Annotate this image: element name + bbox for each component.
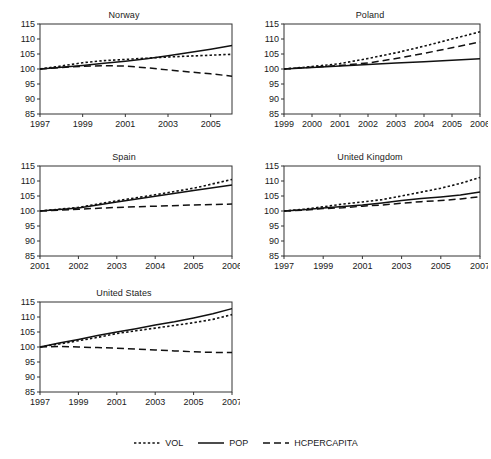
y-tick-label: 105 bbox=[20, 327, 35, 337]
y-tick-label: 90 bbox=[25, 236, 35, 246]
x-tick-label: 2002 bbox=[358, 119, 378, 129]
y-tick-label: 105 bbox=[20, 191, 35, 201]
y-tick-label: 110 bbox=[265, 176, 279, 186]
figure-multi-panel-line-chart: Norway8590951001051101151997199920012003… bbox=[0, 0, 491, 459]
y-tick-label: 95 bbox=[25, 357, 35, 367]
plot-frame bbox=[40, 166, 232, 256]
y-tick-label: 90 bbox=[269, 236, 279, 246]
y-tick-label: 110 bbox=[21, 34, 35, 44]
x-tick-label: 2003 bbox=[386, 119, 406, 129]
panel-plot: 8590951001051101151999200020012002200320… bbox=[252, 10, 488, 140]
panel-plot: 8590951001051101151997199920012003200520… bbox=[252, 152, 488, 282]
x-tick-label: 1999 bbox=[68, 397, 88, 407]
legend-swatch-hcpercapita bbox=[262, 438, 290, 448]
series-line-vol bbox=[40, 180, 232, 212]
x-tick-label: 2005 bbox=[431, 261, 451, 271]
x-tick-label: 1999 bbox=[274, 119, 294, 129]
x-tick-label: 2006 bbox=[222, 261, 240, 271]
chart-legend: VOL POP HCPERCAPITA bbox=[0, 432, 491, 454]
x-tick-label: 1999 bbox=[73, 119, 93, 129]
panel-plot: 8590951001051101151997199920012003200520… bbox=[8, 288, 240, 418]
y-tick-label: 85 bbox=[25, 109, 35, 119]
x-tick-label: 2003 bbox=[392, 261, 412, 271]
panel-title: United States bbox=[8, 288, 240, 299]
panel-title: Norway bbox=[8, 10, 240, 21]
x-tick-label: 1997 bbox=[30, 397, 50, 407]
series-line-hcpercapita bbox=[40, 346, 232, 352]
panel-title: Poland bbox=[252, 10, 488, 21]
series-line-vol bbox=[284, 177, 480, 211]
x-tick-label: 2006 bbox=[470, 119, 488, 129]
legend-item-vol: VOL bbox=[133, 438, 183, 448]
legend-label-hcpercapita: HCPERCAPITA bbox=[294, 438, 357, 448]
chart-panel-poland: Poland8590951001051101151999200020012002… bbox=[252, 10, 488, 140]
x-tick-label: 2003 bbox=[145, 397, 165, 407]
legend-label-vol: VOL bbox=[165, 438, 183, 448]
plot-frame bbox=[284, 166, 480, 256]
x-tick-label: 2001 bbox=[330, 119, 350, 129]
chart-panel-norway: Norway8590951001051101151997199920012003… bbox=[8, 10, 240, 140]
y-tick-label: 100 bbox=[264, 64, 279, 74]
y-tick-label: 85 bbox=[269, 251, 279, 261]
y-tick-label: 100 bbox=[20, 206, 35, 216]
x-tick-label: 2004 bbox=[145, 261, 165, 271]
panel-title: United Kingdom bbox=[252, 152, 488, 163]
x-tick-label: 2003 bbox=[158, 119, 178, 129]
y-tick-label: 100 bbox=[264, 206, 279, 216]
y-tick-label: 105 bbox=[264, 49, 279, 59]
series-line-pop bbox=[284, 59, 480, 69]
y-tick-label: 110 bbox=[21, 312, 35, 322]
y-tick-label: 95 bbox=[269, 79, 279, 89]
x-tick-label: 2001 bbox=[115, 119, 135, 129]
series-line-hcpercapita bbox=[284, 42, 480, 69]
series-line-vol bbox=[40, 315, 232, 347]
y-tick-label: 95 bbox=[269, 221, 279, 231]
series-line-pop bbox=[40, 309, 232, 347]
x-tick-label: 2007 bbox=[222, 397, 240, 407]
x-tick-label: 1999 bbox=[313, 261, 333, 271]
x-tick-label: 2001 bbox=[30, 261, 50, 271]
x-tick-label: 2000 bbox=[302, 119, 322, 129]
y-tick-label: 105 bbox=[20, 49, 35, 59]
x-tick-label: 2001 bbox=[107, 397, 127, 407]
panel-plot: 8590951001051101152001200220032004200520… bbox=[8, 152, 240, 282]
legend-swatch-pop bbox=[197, 438, 225, 448]
y-tick-label: 90 bbox=[25, 372, 35, 382]
y-tick-label: 85 bbox=[25, 387, 35, 397]
x-tick-label: 2002 bbox=[68, 261, 88, 271]
legend-swatch-vol bbox=[133, 438, 161, 448]
legend-label-pop: POP bbox=[229, 438, 248, 448]
x-tick-label: 2005 bbox=[201, 119, 221, 129]
legend-item-hcpercapita: HCPERCAPITA bbox=[262, 438, 357, 448]
x-tick-label: 1997 bbox=[30, 119, 50, 129]
panel-plot: 85909510010511011519971999200120032005 bbox=[8, 10, 240, 140]
legend-item-pop: POP bbox=[197, 438, 248, 448]
y-tick-label: 85 bbox=[25, 251, 35, 261]
y-tick-label: 95 bbox=[25, 79, 35, 89]
y-tick-label: 105 bbox=[264, 191, 279, 201]
x-tick-label: 2004 bbox=[414, 119, 434, 129]
x-tick-label: 2005 bbox=[184, 261, 204, 271]
x-tick-label: 2007 bbox=[470, 261, 488, 271]
plot-frame bbox=[284, 24, 480, 114]
series-line-pop bbox=[284, 192, 480, 211]
y-tick-label: 90 bbox=[25, 94, 35, 104]
y-tick-label: 110 bbox=[265, 34, 279, 44]
chart-panel-united-states: United States859095100105110115199719992… bbox=[8, 288, 240, 418]
x-tick-label: 2001 bbox=[352, 261, 372, 271]
x-tick-label: 2005 bbox=[442, 119, 462, 129]
panel-title: Spain bbox=[8, 152, 240, 163]
y-tick-label: 95 bbox=[25, 221, 35, 231]
y-tick-label: 90 bbox=[269, 94, 279, 104]
y-tick-label: 100 bbox=[20, 342, 35, 352]
chart-panel-united-kingdom: United Kingdom85909510010511011519971999… bbox=[252, 152, 488, 282]
y-tick-label: 85 bbox=[269, 109, 279, 119]
chart-panel-spain: Spain85909510010511011520012002200320042… bbox=[8, 152, 240, 282]
x-tick-label: 2005 bbox=[184, 397, 204, 407]
y-tick-label: 110 bbox=[21, 176, 35, 186]
x-tick-label: 2003 bbox=[107, 261, 127, 271]
x-tick-label: 1997 bbox=[274, 261, 294, 271]
y-tick-label: 100 bbox=[20, 64, 35, 74]
plot-frame bbox=[40, 24, 232, 114]
